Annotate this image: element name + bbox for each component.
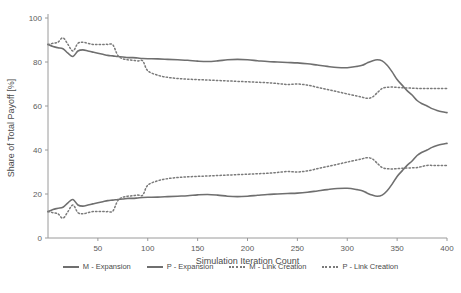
legend-item-p-link-creation[interactable]: P - Link Creation: [322, 262, 398, 271]
y-tick-label: 100: [29, 14, 43, 23]
x-tick-label: 50: [93, 244, 102, 253]
series-line-m-expansion: [48, 44, 447, 112]
series-line-p-link-creation: [48, 158, 447, 219]
legend-dotted-line-icon: [322, 266, 338, 268]
line-chart: 02040608010050100150200250300350400Simul…: [0, 0, 461, 293]
legend-solid-line-icon: [63, 266, 79, 268]
legend-item-m-expansion[interactable]: M - Expansion: [63, 262, 131, 271]
legend-label: M - Link Creation: [249, 262, 306, 271]
series-line-p-expansion: [48, 143, 447, 211]
y-tick-label: 80: [33, 58, 42, 67]
x-tick-label: 300: [341, 244, 355, 253]
legend-label: P - Expansion: [167, 262, 214, 271]
legend-label: P - Link Creation: [342, 262, 398, 271]
series-line-m-link-creation: [48, 38, 447, 99]
y-tick-label: 0: [38, 234, 43, 243]
chart-container: 02040608010050100150200250300350400Simul…: [0, 0, 461, 293]
legend-item-p-expansion[interactable]: P - Expansion: [147, 262, 214, 271]
y-tick-label: 20: [33, 190, 42, 199]
legend-solid-line-icon: [147, 266, 163, 268]
chart-legend: M - ExpansionP - ExpansionM - Link Creat…: [0, 262, 461, 271]
y-tick-label: 60: [33, 102, 42, 111]
x-tick-label: 400: [440, 244, 454, 253]
legend-item-m-link-creation[interactable]: M - Link Creation: [229, 262, 306, 271]
y-axis-title: Share of Total Payoff [%]: [6, 79, 16, 178]
axis-lines: [48, 14, 447, 238]
x-tick-label: 200: [241, 244, 255, 253]
legend-label: M - Expansion: [83, 262, 131, 271]
x-tick-label: 150: [191, 244, 205, 253]
x-tick-label: 350: [390, 244, 404, 253]
x-tick-label: 250: [291, 244, 305, 253]
legend-dotted-line-icon: [229, 266, 245, 268]
y-tick-label: 40: [33, 146, 42, 155]
x-tick-label: 100: [141, 244, 155, 253]
